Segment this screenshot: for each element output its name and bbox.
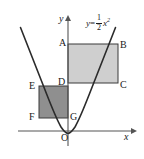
- rectangle-edgf: [39, 86, 68, 118]
- x-axis-arrow: [131, 128, 137, 134]
- point-label-g: G: [70, 112, 77, 122]
- point-label-b: B: [120, 40, 127, 50]
- rectangle-abcd: [68, 44, 118, 83]
- fraction-numerator: 1: [96, 14, 102, 22]
- geometry-figure: y = 1 2 x 2 A B C D E F G O x y: [0, 0, 144, 159]
- y-axis-arrow: [65, 15, 71, 21]
- equation-equals: =: [90, 19, 95, 28]
- equation-label: y = 1 2 x 2: [86, 14, 110, 32]
- equation-exponent: 2: [107, 17, 110, 23]
- origin-label: O: [61, 133, 68, 143]
- fraction-denominator: 2: [96, 24, 102, 32]
- point-label-d: D: [58, 77, 65, 87]
- point-label-e: E: [29, 81, 35, 91]
- point-label-f: F: [29, 112, 35, 122]
- equation-fraction: 1 2: [96, 14, 102, 32]
- point-label-c: C: [120, 80, 127, 90]
- x-axis-label: x: [124, 132, 128, 142]
- point-label-a: A: [59, 38, 66, 48]
- y-axis-label: y: [59, 14, 63, 24]
